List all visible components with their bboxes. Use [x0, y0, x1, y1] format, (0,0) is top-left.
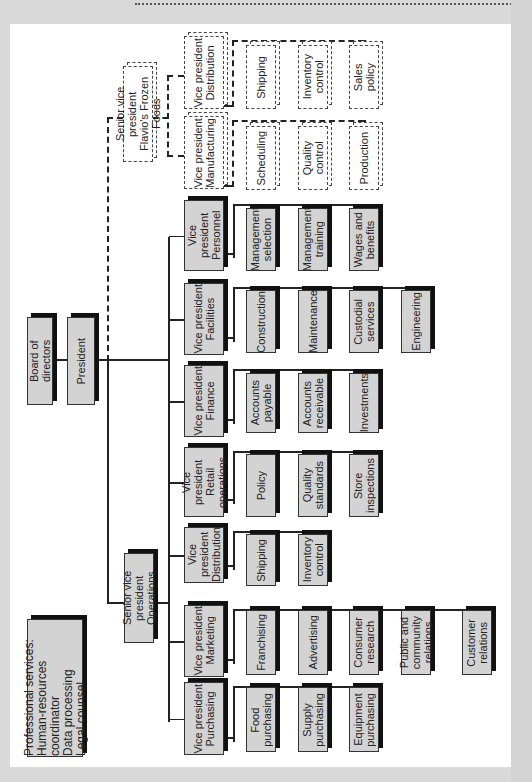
dept-facilities-2-box-label: Custodial services — [352, 299, 376, 345]
dept-facilities-3-box-label: Engineering — [410, 292, 422, 351]
dashed-connector — [167, 155, 184, 157]
vp-facilities-box[interactable]: Vice president Facilities — [184, 283, 224, 355]
dept-retail-0-box-label: Policy — [255, 471, 267, 500]
spine — [168, 237, 170, 722]
dept-retail-0-box[interactable]: Policy — [246, 454, 276, 517]
dept-frozen-distribution-2-box[interactable]: Sales policy — [349, 45, 379, 109]
dept-retail-1-box[interactable]: Quality standards — [298, 454, 328, 517]
dept-personnel-2-box[interactable]: Wages and benefits — [349, 208, 379, 271]
dept-facilities-1-box[interactable]: Maintenance — [298, 290, 328, 353]
top-dotted-rule — [135, 3, 532, 5]
dept-purchasing-2-box-label: Equipment purchasing — [352, 693, 376, 747]
dept-purchasing-0-box[interactable]: Food purchasing — [246, 687, 276, 752]
board-of-directors-box[interactable]: Board of directors — [27, 317, 53, 405]
dept-frozen-distribution-1-box[interactable]: Inventory control — [298, 45, 328, 109]
dept-purchasing-1-box[interactable]: Supply purchasing — [298, 687, 328, 752]
dashed-connector — [224, 105, 233, 107]
dept-purchasing-2-box[interactable]: Equipment purchasing — [349, 687, 379, 752]
dept-facilities-0-box-label: Construction — [255, 291, 267, 353]
dept-frozen-distribution-0-box[interactable]: Shipping — [246, 45, 276, 109]
board-label: Board of directors — [28, 318, 52, 404]
dept-marketing-2-box-label: Consumer research — [352, 617, 376, 668]
dept-manufacturing-2-box-label: Production — [358, 132, 370, 185]
dept-finance-2-box-label: Investments — [358, 373, 370, 432]
dept-finance-0-box-label: Accounts payable — [249, 380, 273, 425]
connector — [233, 369, 235, 424]
dept-facilities-3-box[interactable]: Engineering — [401, 290, 431, 353]
dept-manufacturing-0-box-label: Scheduling — [255, 131, 267, 185]
dept-retail-2-box[interactable]: Store inspections — [349, 454, 379, 517]
dept-marketing-3-box[interactable]: Public and community relations — [401, 610, 431, 675]
dept-frozen-distribution-2-box-label: Sales policy — [352, 63, 376, 91]
connector — [169, 641, 184, 643]
dept-finance-1-box[interactable]: Accounts receivable — [298, 373, 328, 433]
dept-retail-2-box-label: Store inspections — [352, 458, 376, 513]
dept-distribution-1-box[interactable]: Inventory control — [298, 534, 328, 586]
vp-distribution-box[interactable]: Vice president Distribution — [184, 527, 224, 583]
dept-marketing-1-box[interactable]: Advertising — [298, 610, 328, 675]
vp-finance-box-label: Vice president Finance — [192, 366, 216, 436]
dept-marketing-3-box-label: Public and community relations — [398, 616, 434, 669]
vp-distribution-box-label: Vice president Distribution — [186, 527, 222, 582]
dept-facilities-1-box-label: Maintenance — [307, 290, 319, 353]
vp-marketing-box[interactable]: Vice president Marketing — [184, 605, 224, 677]
dashed-connector — [224, 185, 233, 187]
connector — [107, 359, 169, 361]
dept-purchasing-1-box-label: Supply purchasing — [301, 693, 325, 747]
svp-frozen-foods-box[interactable]: Senior vice president Flavio's Frozen Fo… — [123, 66, 153, 162]
dept-finance-0-box[interactable]: Accounts payable — [246, 373, 276, 433]
vp-marketing-box-label: Vice president Marketing — [192, 606, 216, 676]
svp-operations-box[interactable]: Senior vice president Operations — [124, 553, 154, 643]
dept-manufacturing-0-box[interactable]: Scheduling — [246, 126, 276, 190]
dept-personnel-0-box-label: Management selection — [249, 207, 273, 271]
vp-retail-box[interactable]: Vice president Retail operations — [184, 447, 224, 517]
dept-marketing-0-box[interactable]: Franchising — [246, 610, 276, 675]
vp-facilities-box-label: Vice president Facilities — [192, 284, 216, 354]
dept-manufacturing-1-box[interactable]: Quality control — [298, 126, 328, 190]
connector — [233, 451, 235, 504]
dept-manufacturing-2-box[interactable]: Production — [349, 126, 379, 190]
dept-manufacturing-1-box-label: Quality control — [301, 141, 325, 175]
connector — [233, 531, 235, 570]
vp-frozen-distribution-box-label: Vice president Distribution — [192, 38, 216, 108]
vp-personnel-box[interactable]: Vice president Personnel — [184, 200, 224, 271]
dept-personnel-0-box[interactable]: Management selection — [246, 208, 276, 271]
connector — [169, 555, 184, 557]
connector — [169, 401, 184, 403]
dept-frozen-distribution-1-box-label: Inventory control — [301, 54, 325, 99]
page-margin — [511, 0, 532, 782]
vp-purchasing-box[interactable]: Vice president Purchasing — [184, 682, 224, 755]
vp-finance-box[interactable]: Vice president Finance — [184, 365, 224, 437]
president-box[interactable]: President — [67, 317, 95, 405]
dashed-connector — [107, 117, 109, 361]
vp-manufacturing-box-label: Vice president Manufacturing — [192, 118, 216, 188]
dept-facilities-0-box[interactable]: Construction — [246, 290, 276, 353]
dept-distribution-0-box[interactable]: Shipping — [246, 534, 276, 586]
vp-frozen-distribution-box[interactable]: Vice president Distribution — [184, 36, 224, 109]
connector — [233, 204, 235, 258]
professional-services-label: Professional services: Human-resources c… — [23, 620, 88, 756]
dept-marketing-4-box[interactable]: Customer relations — [462, 610, 492, 675]
professional-services-box[interactable]: Professional services: Human-resources c… — [27, 619, 83, 757]
dept-facilities-2-box[interactable]: Custodial services — [349, 290, 379, 353]
dept-purchasing-0-box-label: Food purchasing — [249, 693, 273, 747]
dashed-connector — [153, 117, 168, 119]
connector — [169, 319, 184, 321]
vp-retail-box-label: Vice president Retail operations — [180, 448, 228, 516]
dept-finance-1-box-label: Accounts receivable — [301, 378, 325, 428]
dept-retail-1-box-label: Quality standards — [301, 461, 325, 509]
dept-personnel-1-box[interactable]: Management training — [298, 208, 328, 271]
svp-operations-label: Senior vice president Operations — [121, 554, 157, 642]
dept-finance-2-box[interactable]: Investments — [349, 373, 379, 433]
vp-manufacturing-box[interactable]: Vice president Manufacturing — [184, 116, 224, 189]
connector — [107, 359, 109, 603]
dept-marketing-2-box[interactable]: Consumer research — [349, 610, 379, 675]
dept-personnel-1-box-label: Management training — [301, 207, 325, 271]
president-label: President — [75, 338, 87, 384]
dashed-connector — [167, 75, 169, 157]
dashed-connector — [232, 40, 234, 107]
vp-purchasing-box-label: Vice president Purchasing — [192, 684, 216, 754]
dept-personnel-2-box-label: Wages and benefits — [352, 212, 376, 267]
dashed-connector — [232, 120, 234, 187]
dept-marketing-1-box-label: Advertising — [307, 615, 319, 669]
